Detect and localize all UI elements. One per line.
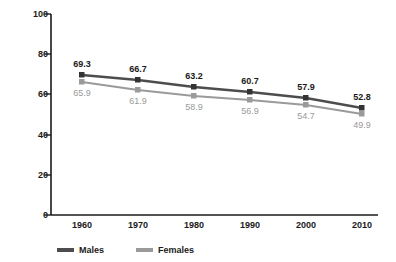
value-label-males-1970: 66.7: [118, 65, 158, 74]
value-label-females-1970: 61.9: [118, 97, 158, 106]
value-label-females-1990: 56.9: [230, 107, 270, 116]
line-chart: Percentage 100 80 60 40 20 0: [0, 0, 396, 262]
legend-swatch-females-icon: [136, 248, 153, 252]
legend-item-females[interactable]: Females: [136, 243, 194, 257]
value-label-males-1990: 60.7: [230, 77, 270, 86]
value-label-females-2010: 49.9: [342, 121, 382, 130]
value-label-males-1980: 63.2: [174, 72, 214, 81]
legend-label-females: Females: [158, 246, 194, 255]
x-tick-label-2010: 2010: [340, 221, 384, 230]
x-tick-label-1980: 1980: [172, 221, 216, 230]
value-label-females-2000: 54.7: [286, 112, 326, 121]
value-label-males-2000: 57.9: [286, 83, 326, 92]
x-tick-label-1970: 1970: [116, 221, 160, 230]
x-tick-label-1960: 1960: [60, 221, 104, 230]
value-label-males-2010: 52.8: [342, 93, 382, 102]
value-label-males-1960: 69.3: [62, 60, 102, 69]
legend-item-males[interactable]: Males: [57, 243, 104, 257]
value-label-females-1980: 58.9: [174, 103, 214, 112]
legend-swatch-males-icon: [57, 248, 74, 252]
x-tick-label-1990: 1990: [228, 221, 272, 230]
value-label-females-1960: 65.9: [62, 89, 102, 98]
x-tick-label-2000: 2000: [284, 221, 328, 230]
legend-label-males: Males: [79, 246, 104, 255]
